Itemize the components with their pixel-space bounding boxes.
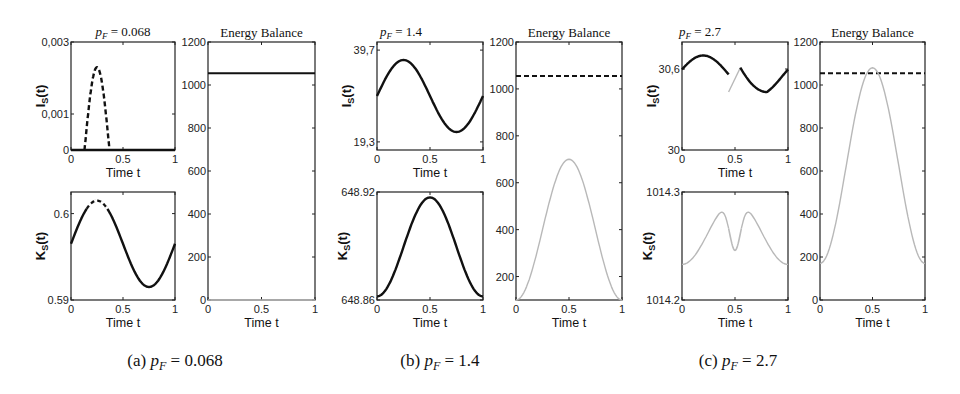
y-tick-label: 400 [188, 208, 206, 220]
x-tick-label: 1 [172, 303, 178, 315]
subfigure-caption: (a) pF = 0.068 [127, 351, 222, 373]
y-tick-label: 600 [496, 177, 514, 189]
axes-frame [208, 42, 315, 300]
subplot-c-top: 00.51Time t3030,6IS(t)pF = 2.7 [644, 24, 791, 180]
subplot-b-top: 00.51Time t19,339,7IS(t)pF = 1.4 [339, 24, 486, 180]
x-axis-label: Time t [413, 316, 448, 330]
subfigure-caption: (c) pF = 2.7 [699, 351, 778, 373]
x-axis-label: Time t [413, 166, 448, 180]
y-tick-label: 1000 [182, 79, 206, 91]
y-tick-label: 800 [188, 122, 206, 134]
x-axis-label: Time t [106, 316, 141, 330]
figure: 00.51Time t00,0010,003IS(t)pF = 0.06800.… [0, 0, 960, 394]
axes-frame [682, 42, 788, 150]
x-tick-label: 0.5 [115, 153, 130, 165]
y-tick-label: 600 [188, 165, 206, 177]
x-tick-label: 1 [172, 153, 178, 165]
x-tick-label: 0 [374, 153, 380, 165]
y-tick-label: 1200 [490, 36, 514, 48]
y-tick-label: 30 [668, 144, 680, 156]
y-tick-label: 0 [200, 294, 206, 306]
y-tick-label: 648.86 [341, 294, 375, 306]
series-line [820, 68, 925, 264]
y-tick-label: 800 [800, 122, 818, 134]
y-tick-label: 1000 [794, 79, 818, 91]
y-axis-label: IS(t) [339, 85, 356, 108]
series-line [682, 56, 729, 75]
x-tick-label: 1 [619, 303, 625, 315]
y-axis-label: KS(t) [33, 232, 50, 260]
subplot-c-bottom: 00.51Time t1014.21014.3KS(t) [640, 186, 791, 330]
subplot-title: pF = 2.7 [678, 24, 722, 41]
axes-frame [377, 192, 483, 300]
series-line [377, 197, 483, 296]
y-tick-label: 0 [812, 294, 818, 306]
x-tick-label: 1 [922, 303, 928, 315]
series-line [729, 68, 741, 92]
subplot-c-energy: 00.51Time t020040060080010001200Energy B… [794, 25, 929, 330]
subplot-a-energy: 00.51Time t020040060080010001200Energy B… [182, 25, 319, 330]
y-axis-label: IS(t) [644, 85, 661, 108]
x-axis-label: Time t [106, 166, 141, 180]
y-tick-label: 600 [800, 165, 818, 177]
y-tick-label: 400 [496, 224, 514, 236]
x-tick-label: 0.5 [727, 303, 742, 315]
y-axis-label: KS(t) [640, 232, 657, 260]
x-tick-label: 0.5 [727, 153, 742, 165]
y-tick-label: 1200 [794, 36, 818, 48]
x-tick-label: 0.5 [865, 303, 880, 315]
x-axis-label: Time t [552, 316, 587, 330]
subplot-b-bottom: 00.51Time t648.86648.92KS(t) [335, 186, 486, 330]
x-tick-label: 1 [785, 153, 791, 165]
y-tick-label: 1014.2 [646, 294, 680, 306]
axes-frame [682, 192, 788, 300]
y-tick-label: 1000 [490, 83, 514, 95]
series-line [516, 159, 622, 300]
y-tick-label: 19,3 [354, 136, 375, 148]
y-tick-label: 30,6 [659, 63, 680, 75]
subplot-title: pF = 0.068 [94, 24, 150, 41]
y-tick-label: 1200 [182, 36, 206, 48]
x-axis-label: Time t [718, 316, 753, 330]
x-axis-label: Time t [244, 316, 279, 330]
x-tick-label: 0.5 [561, 303, 576, 315]
y-axis-label: KS(t) [335, 232, 352, 260]
series-line [377, 60, 483, 132]
x-tick-label: 0.5 [254, 303, 269, 315]
y-tick-label: 200 [188, 251, 206, 263]
y-tick-label: 39,7 [354, 44, 375, 56]
y-tick-label: 0 [63, 144, 69, 156]
x-tick-label: 0 [513, 303, 519, 315]
y-tick-label: 1014.3 [646, 186, 680, 198]
x-tick-label: 0.5 [422, 303, 437, 315]
energy-balance-title: Energy Balance [528, 25, 611, 40]
series-line [682, 212, 788, 264]
subplot-b-energy: 00.51Time t20040060080010001200Energy Ba… [490, 25, 626, 330]
x-tick-label: 1 [785, 303, 791, 315]
series-line [71, 201, 175, 287]
y-tick-label: 648.92 [341, 186, 375, 198]
subplot-a-bottom: 00.51Time t0.590.6KS(t) [33, 192, 178, 330]
y-tick-label: 0.6 [54, 208, 69, 220]
axes-frame [820, 42, 925, 300]
energy-balance-title: Energy Balance [220, 25, 303, 40]
y-tick-label: 200 [496, 271, 514, 283]
x-axis-label: Time t [855, 316, 890, 330]
subplot-a-top: 00.51Time t00,0010,003IS(t)pF = 0.068 [33, 24, 178, 180]
y-tick-label: 200 [800, 251, 818, 263]
y-tick-label: 0,001 [41, 108, 69, 120]
y-tick-label: 0,003 [41, 36, 69, 48]
series-line [85, 67, 110, 150]
x-tick-label: 0.5 [422, 153, 437, 165]
y-tick-label: 400 [800, 208, 818, 220]
x-tick-label: 0.5 [115, 303, 130, 315]
y-tick-label: 0.59 [48, 294, 69, 306]
y-tick-label: 800 [496, 130, 514, 142]
x-tick-label: 1 [480, 303, 486, 315]
x-axis-label: Time t [718, 166, 753, 180]
subplot-title: pF = 1.4 [379, 24, 423, 41]
energy-balance-title: Energy Balance [831, 25, 914, 40]
subfigure-caption: (b) pF = 1.4 [400, 351, 480, 373]
x-tick-label: 1 [480, 153, 486, 165]
x-tick-label: 1 [312, 303, 318, 315]
